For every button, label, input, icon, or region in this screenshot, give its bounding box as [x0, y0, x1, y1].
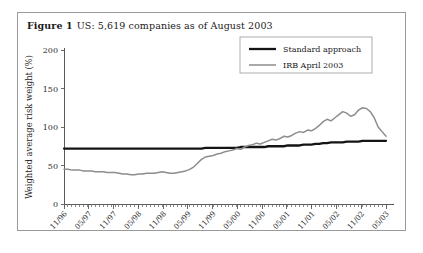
y-tick-label-200: 200 [43, 46, 58, 55]
y-tick-label-100: 100 [43, 123, 58, 132]
x-tick-label-11/98: 11/98 [147, 209, 168, 231]
chart-plot-area: 050100150200Weighted average risk weight… [18, 13, 407, 232]
x-tick-label-05/98: 05/98 [122, 209, 143, 231]
x-tick-label-05/00: 05/00 [221, 209, 242, 231]
x-tick-label-11/97: 11/97 [98, 209, 119, 231]
x-tick-label-11/99: 11/99 [197, 209, 218, 231]
x-tick-label-11/02: 11/02 [345, 209, 366, 231]
legend-label-0: Standard approach [283, 45, 361, 54]
x-tick-label-11/00: 11/00 [246, 209, 267, 231]
risk-weight-line-chart: 050100150200Weighted average risk weight… [18, 13, 407, 232]
series-line-irb-april-2003 [64, 108, 386, 175]
y-tick-label-150: 150 [43, 85, 58, 94]
x-tick-label-11/01: 11/01 [296, 209, 317, 231]
x-tick-label-05/99: 05/99 [172, 209, 193, 231]
x-tick-label-05/97: 05/97 [73, 209, 94, 231]
x-tick-label-11/96: 11/96 [48, 209, 69, 231]
x-tick-label-05/01: 05/01 [271, 209, 292, 231]
figure-frame: Figure 1US: 5,619 companies as of August… [17, 12, 406, 231]
y-axis-title: Weighted average risk weight (%) [24, 55, 34, 199]
legend-label-1: IRB April 2003 [283, 61, 343, 70]
x-tick-label-05/02: 05/02 [320, 209, 341, 231]
y-tick-label-50: 50 [48, 162, 58, 171]
x-tick-label-05/03: 05/03 [370, 209, 391, 231]
series-line-standard-approach [64, 141, 386, 149]
y-tick-label-0: 0 [53, 200, 58, 209]
